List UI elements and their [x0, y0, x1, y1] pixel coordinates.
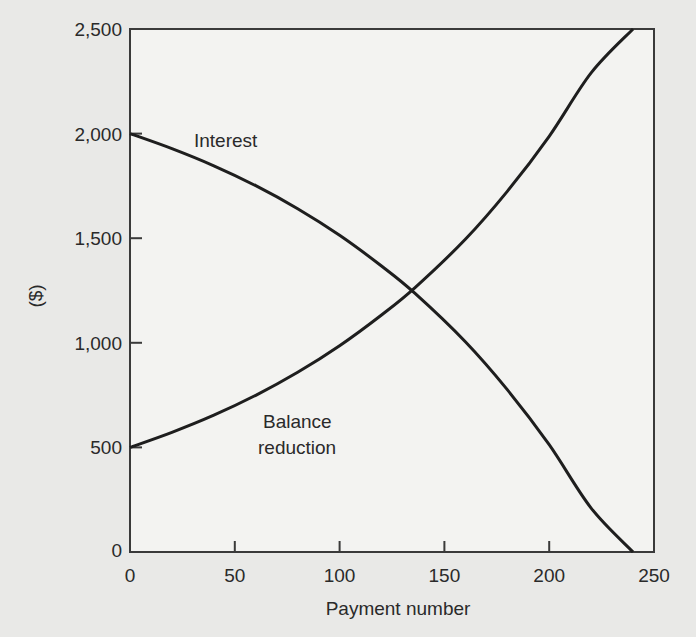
x-tick-label: 250 — [638, 565, 670, 586]
annotation-balance: Balance — [263, 411, 332, 432]
y-tick-label: 2,500 — [74, 19, 122, 40]
y-axis-title: ($) — [25, 284, 46, 307]
x-tick-label: 100 — [324, 565, 356, 586]
x-tick-label: 200 — [533, 565, 565, 586]
x-tick-label: 50 — [224, 565, 245, 586]
chart: 050100150200250 05001,0001,5002,0002,500… — [0, 0, 696, 637]
annotation-reduction: reduction — [258, 437, 336, 458]
annotation-interest: Interest — [194, 130, 258, 151]
y-tick-label: 1,000 — [74, 333, 122, 354]
y-tick-label: 0 — [111, 540, 122, 561]
y-tick-label: 2,000 — [74, 124, 122, 145]
y-tick-labels: 05001,0001,5002,0002,500 — [74, 19, 122, 561]
plot-frame — [130, 29, 654, 552]
x-tick-label: 150 — [429, 565, 461, 586]
x-tick-labels: 050100150200250 — [125, 565, 670, 586]
x-axis-title: Payment number — [326, 598, 471, 619]
y-tick-label: 1,500 — [74, 228, 122, 249]
y-tick-label: 500 — [90, 437, 122, 458]
x-tick-label: 0 — [125, 565, 136, 586]
